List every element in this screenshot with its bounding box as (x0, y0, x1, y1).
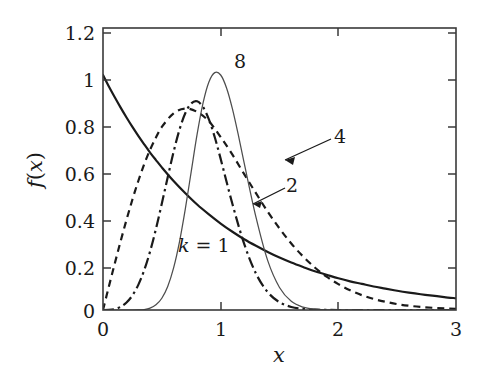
y-tick-label-0.4: 0.4 (65, 210, 95, 232)
x-tick-label-1: 1 (215, 318, 227, 340)
annotation-curve-2: 2 (286, 174, 298, 196)
x-tick-label-0: 0 (97, 318, 109, 340)
x-tick-label-2: 2 (332, 318, 344, 340)
annotation-curve-4: 4 (334, 125, 346, 147)
chart-svg: 1.2 1 0.8 0.6 0.4 0.2 0 0 1 2 3 x f(x) (0, 0, 489, 372)
annotation-k-equals-1: k = 1 (178, 234, 230, 256)
y-axis-label: f(x) (23, 152, 47, 190)
x-tick-label-3: 3 (450, 318, 462, 340)
y-axis-label-group: f(x) (23, 152, 47, 190)
y-tick-label-1: 1 (83, 69, 95, 91)
y-tick-label-0.8: 0.8 (65, 116, 95, 138)
y-tick-label-0.2: 0.2 (65, 257, 95, 279)
y-tick-label-0: 0 (83, 300, 95, 322)
y-axis-label-paren-close: ) (23, 152, 47, 160)
y-tick-label-0.6: 0.6 (65, 163, 95, 185)
annotation-curve-8: 8 (234, 50, 246, 72)
annotation-k-symbol: k (178, 234, 190, 256)
weibull-density-chart: 1.2 1 0.8 0.6 0.4 0.2 0 0 1 2 3 x f(x) (0, 0, 489, 372)
annotation-k-rest: = 1 (190, 234, 230, 256)
y-axis-label-var: x (23, 160, 47, 172)
y-tick-label-1.2: 1.2 (65, 22, 95, 44)
x-axis-label: x (273, 343, 285, 367)
y-axis-label-paren-open: ( (23, 172, 47, 180)
